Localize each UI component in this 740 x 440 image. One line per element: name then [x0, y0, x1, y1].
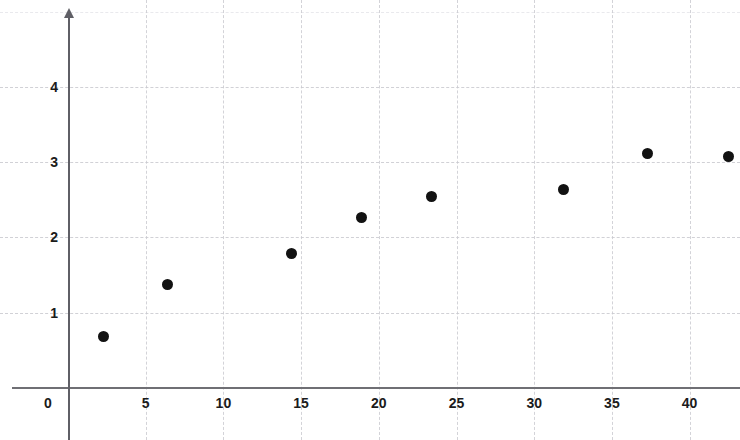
data-point: [426, 191, 437, 202]
x-tick-label-25: 25: [449, 395, 465, 411]
x-tick-label-5: 5: [142, 395, 150, 411]
gridline-x-5: [146, 0, 147, 440]
gridline-x-20: [379, 0, 380, 440]
gridline-x-35: [612, 0, 613, 440]
scatter-plot-canvas: 0510152025303540 1234: [0, 0, 740, 440]
gridline-x-30: [534, 0, 535, 440]
y-tick-label-1: 1: [36, 305, 58, 321]
gridline-y-5: [0, 12, 740, 13]
x-tick-label-15: 15: [293, 395, 309, 411]
gridline-y-3: [0, 162, 740, 163]
x-tick-label-35: 35: [604, 395, 620, 411]
x-axis-line: [12, 387, 740, 389]
gridline-x-40: [690, 0, 691, 440]
data-point: [642, 148, 653, 159]
data-point: [162, 279, 173, 290]
gridline-x-15: [301, 0, 302, 440]
x-tick-label-20: 20: [371, 395, 387, 411]
x-tick-label-10: 10: [216, 395, 232, 411]
data-point: [356, 212, 367, 223]
gridline-y-4: [0, 87, 740, 88]
x-tick-label-40: 40: [682, 395, 698, 411]
y-tick-label-3: 3: [36, 154, 58, 170]
data-point: [286, 248, 297, 259]
data-point: [558, 184, 569, 195]
y-tick-label-4: 4: [36, 79, 58, 95]
gridline-x-10: [223, 0, 224, 440]
y-axis-line: [68, 10, 70, 440]
x-tick-label-30: 30: [526, 395, 542, 411]
gridline-y-2: [0, 237, 740, 238]
gridline-x-25: [457, 0, 458, 440]
y-axis-arrow-icon: [64, 8, 74, 18]
data-point: [723, 151, 734, 162]
data-point: [98, 331, 109, 342]
gridline-y-1: [0, 313, 740, 314]
x-tick-label-0: 0: [44, 395, 52, 411]
y-tick-label-2: 2: [36, 229, 58, 245]
